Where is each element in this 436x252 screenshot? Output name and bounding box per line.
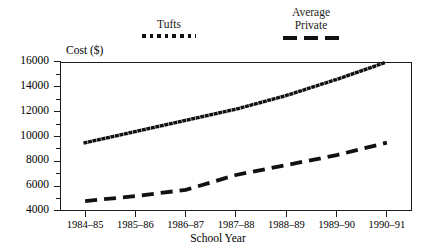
legend-entry-tufts: Tufts [132,18,206,39]
x-axis-tick [85,211,86,217]
x-axis-tick-label: 1990–91 [360,220,414,231]
y-axis-tick-label: 10000 [3,130,49,142]
y-axis-tick-major [54,61,61,62]
x-axis-tick [286,211,287,217]
x-axis-tick-label: 1989–90 [310,220,364,231]
chart-page: Tufts Average Private Cost ($) 400060008… [0,0,436,252]
y-axis-tick-label: 14000 [3,80,49,92]
legend-label-average-private: Average Private [268,6,354,32]
x-axis-tick-label: 1984–85 [58,220,112,231]
y-axis-tick-major [54,210,61,211]
y-axis-tick-minor [56,74,61,75]
x-axis-tick-label: 1986–87 [159,220,213,231]
y-axis-tick-major [54,136,61,137]
y-axis-tick-major [54,161,61,162]
x-axis-title: School Year [0,232,436,244]
x-axis-tick-label: 1988–89 [259,220,313,231]
y-axis-tick-label: 16000 [3,55,49,67]
x-axis-tick-label: 1985–86 [108,220,162,231]
y-axis-tick-minor [56,99,61,100]
y-axis-tick-major [54,86,61,87]
x-axis-tick [185,211,186,217]
dotted-line-icon [142,34,196,38]
x-axis-tick [135,211,136,217]
y-axis-tick-label: 12000 [3,105,49,117]
x-axis-tick [386,211,387,217]
legend-swatch-average-private [268,36,354,41]
legend-swatch-tufts [132,34,206,39]
y-axis-tick-minor [56,198,61,199]
x-axis-tick [336,211,337,217]
dashed-line-icon [283,36,339,41]
x-axis-tick-label: 1987–88 [209,220,263,231]
legend-entry-average-private: Average Private [268,6,354,41]
y-axis-tick-minor [56,173,61,174]
y-axis-tick-label: 4000 [3,204,49,216]
y-axis-tick-label: 6000 [3,179,49,191]
x-axis-tick [235,211,236,217]
y-axis-title: Cost ($) [66,44,103,56]
y-axis-tick-minor [56,124,61,125]
y-axis-tick-minor [56,148,61,149]
legend-label-tufts: Tufts [132,18,206,31]
y-axis-tick-label: 8000 [3,154,49,166]
y-axis-tick-major [54,111,61,112]
plot-area [60,62,412,211]
y-axis-tick-major [54,186,61,187]
